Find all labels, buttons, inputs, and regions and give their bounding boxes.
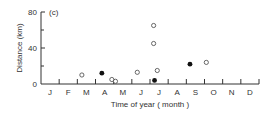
x-tick-label: A xyxy=(175,88,181,97)
filled-data-point xyxy=(99,71,104,76)
x-tick-label: F xyxy=(66,88,71,97)
x-tick-label: O xyxy=(210,88,216,97)
x-tick-label: M xyxy=(83,88,90,97)
x-tick-label: J xyxy=(48,88,52,97)
y-axis-title: Distance (km) xyxy=(15,23,24,73)
y-tick-80: 80 xyxy=(28,8,37,17)
x-tick-label: S xyxy=(193,88,198,97)
filled-data-point xyxy=(188,62,193,67)
x-tick-label: A xyxy=(102,88,108,97)
x-tick-label: J xyxy=(157,88,161,97)
panel-label: (c) xyxy=(49,8,59,17)
x-tick-label: M xyxy=(119,88,126,97)
open-data-point xyxy=(155,68,159,72)
x-tick-label: N xyxy=(229,88,235,97)
open-data-point xyxy=(135,70,139,74)
y-axis: 80 40 0 Distance (km) xyxy=(15,8,45,89)
x-tick-label: J xyxy=(139,88,143,97)
filled-data-point xyxy=(152,78,157,83)
y-tick-40: 40 xyxy=(28,44,37,53)
x-tick-label: D xyxy=(247,88,253,97)
open-data-point xyxy=(80,73,84,77)
y-tick-0: 0 xyxy=(33,80,38,89)
open-data-point xyxy=(152,23,156,27)
open-data-point xyxy=(204,60,208,64)
data-points xyxy=(80,23,209,83)
x-axis-title: Time of year ( month ) xyxy=(111,100,190,109)
x-axis: JFMAMJJASOND xyxy=(41,79,259,97)
open-data-point xyxy=(152,41,156,45)
open-data-point xyxy=(113,79,117,83)
scatter-chart: 80 40 0 Distance (km) (c) JFMAMJJASOND T… xyxy=(0,0,271,115)
